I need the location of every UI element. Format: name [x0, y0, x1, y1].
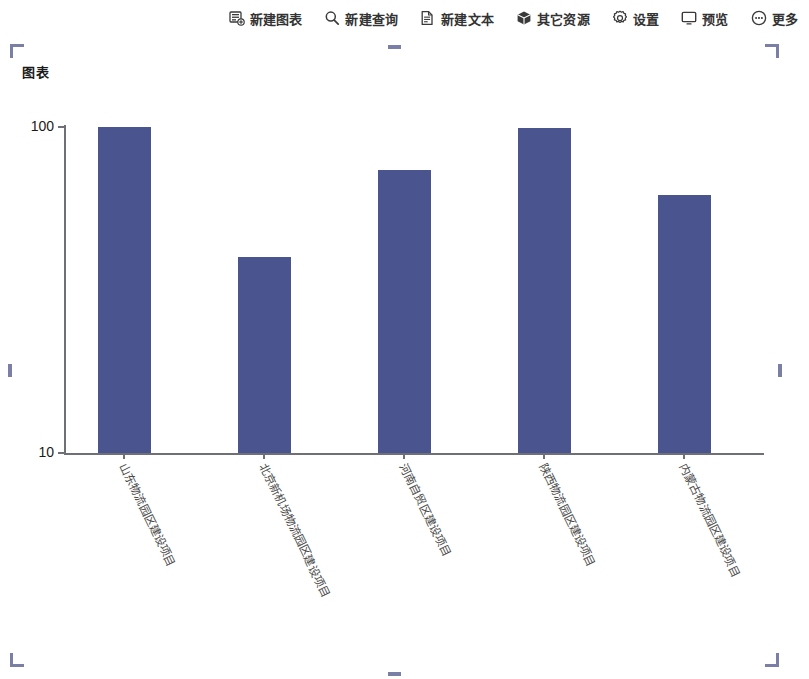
bar[interactable]	[98, 127, 151, 453]
ellipsis-circle-icon	[751, 10, 767, 26]
toolbar-item-new-query[interactable]: 新建查询	[313, 3, 409, 33]
toolbar-item-new-chart[interactable]: 新建图表	[218, 3, 314, 33]
toolbar-item-settings[interactable]: 设置	[601, 3, 670, 33]
x-tick-mark	[123, 454, 125, 459]
x-category-label: 山东物流园区建设项目	[117, 462, 177, 569]
toolbar: 新建图表 新建查询 新建文本	[0, 0, 809, 36]
bar[interactable]	[658, 195, 711, 453]
gear-icon	[612, 10, 628, 26]
bar[interactable]	[238, 257, 291, 453]
x-tick-mark	[683, 454, 685, 459]
x-category-label: 内蒙古物流园区建设项目	[677, 462, 742, 579]
toolbar-item-more[interactable]: 更多	[740, 3, 809, 33]
toolbar-item-preview[interactable]: 预览	[670, 3, 739, 33]
x-category-label: 河南自贸区建设项目	[397, 462, 452, 558]
chart-panel[interactable]: 图表 10010 山东物流园区建设项目北京新机场物流园区建设项目河南自贸区建设项…	[0, 40, 809, 679]
toolbar-item-other-resources-label: 其它资源	[537, 9, 590, 28]
y-axis-line	[64, 125, 66, 455]
x-tick-mark	[403, 454, 405, 459]
toolbar-item-more-label: 更多	[772, 9, 798, 28]
document-icon	[420, 10, 436, 26]
toolbar-item-new-query-label: 新建查询	[345, 9, 398, 28]
search-icon	[324, 10, 340, 26]
x-tick-mark	[543, 454, 545, 459]
monitor-icon	[681, 10, 697, 26]
y-tick-mark	[58, 452, 64, 454]
bar-chart[interactable]: 10010 山东物流园区建设项目北京新机场物流园区建设项目河南自贸区建设项目陕西…	[0, 40, 809, 679]
x-category-label: 北京新机场物流园区建设项目	[257, 462, 332, 599]
bar[interactable]	[378, 170, 431, 453]
toolbar-item-new-text-label: 新建文本	[441, 9, 494, 28]
toolbar-item-preview-label: 预览	[702, 9, 728, 28]
bar[interactable]	[518, 128, 571, 453]
x-category-label: 陕西物流园区建设项目	[537, 462, 597, 569]
toolbar-item-new-chart-label: 新建图表	[250, 9, 303, 28]
toolbar-item-settings-label: 设置	[633, 9, 659, 28]
new-chart-icon	[229, 10, 245, 26]
toolbar-item-new-text[interactable]: 新建文本	[409, 3, 505, 33]
y-tick-label: 10	[8, 445, 54, 459]
y-tick-label: 100	[8, 119, 54, 133]
cube-icon	[516, 10, 532, 26]
toolbar-item-other-resources[interactable]: 其它资源	[505, 3, 601, 33]
y-tick-mark	[58, 126, 64, 128]
x-axis-line	[64, 453, 764, 455]
x-tick-mark	[263, 454, 265, 459]
